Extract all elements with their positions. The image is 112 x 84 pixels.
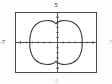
- y-min-label: -5: [0, 78, 112, 84]
- x-min-label: -7: [0, 39, 5, 45]
- x-max-label: 7: [109, 39, 112, 45]
- plot-canvas: [0, 0, 112, 84]
- plot-screenshot: 5 -7 7 -5: [0, 0, 112, 84]
- y-max-label: 5: [0, 2, 112, 8]
